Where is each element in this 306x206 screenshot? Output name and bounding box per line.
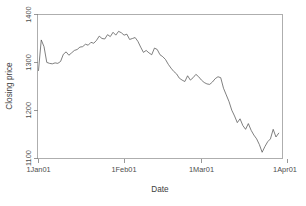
x-tick-label-feb: 1Feb01 — [111, 165, 136, 174]
y-tick-label-1100: 1100 — [24, 150, 33, 166]
time-series-plot: 1100 1200 1300 1400 1Jan01 1Feb01 1Mar01… — [0, 0, 306, 206]
y-tick-label-1200: 1200 — [24, 102, 33, 118]
y-tick-label-1300: 1300 — [24, 54, 33, 70]
x-tick-label-jan: 1Jan01 — [26, 165, 50, 174]
y-axis-title: Closing price — [5, 62, 14, 110]
figure-background — [0, 0, 306, 206]
chart-figure: 1100 1200 1300 1400 1Jan01 1Feb01 1Mar01… — [0, 0, 306, 206]
x-axis-title: Date — [151, 185, 169, 194]
x-tick-label-mar: 1Mar01 — [189, 165, 214, 174]
y-tick-label-1400: 1400 — [24, 6, 33, 22]
x-tick-label-apr: 1Apr01 — [273, 165, 297, 174]
